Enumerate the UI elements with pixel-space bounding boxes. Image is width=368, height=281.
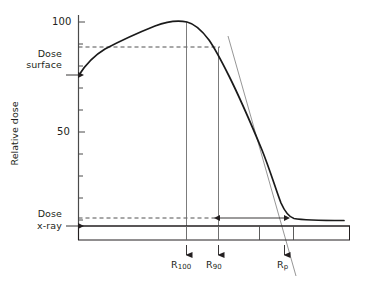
dose-surface-label-line2: surface	[2, 59, 62, 70]
x-marker-label-r90: R90	[206, 259, 222, 271]
rp-base: R	[277, 259, 284, 270]
vertical-markers	[187, 22, 219, 240]
plot-canvas	[0, 0, 368, 281]
dose-surface-label-line1: Dose	[2, 48, 62, 59]
dashed-levels	[79, 47, 221, 218]
y-axis-label: Relative dose	[9, 94, 20, 174]
x-marker-arrows	[187, 245, 285, 255]
y-tick-label-50: 50	[57, 126, 70, 138]
rp-sub: p	[284, 263, 289, 271]
r100-base: R	[171, 259, 178, 270]
depth-dose-figure: Relative dose 100 50 Dose surface Dose x…	[0, 0, 368, 281]
x-marker-label-r100: R100	[171, 259, 191, 271]
phantom-slab	[79, 226, 351, 240]
r100-sub: 100	[178, 263, 192, 271]
depth-dose-curve	[79, 21, 344, 220]
dose-xray-label-line2: x-ray	[2, 220, 62, 231]
y-tick-label-100: 100	[52, 16, 71, 28]
dose-xray-label-line1: Dose	[2, 208, 62, 219]
y-axis	[79, 15, 86, 240]
x-marker-label-rp: Rp	[277, 259, 288, 271]
r90-base: R	[206, 259, 213, 270]
r90-sub: 90	[213, 263, 222, 271]
